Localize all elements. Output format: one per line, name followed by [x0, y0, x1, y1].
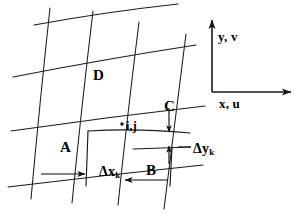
x-axis-label: x, u [219, 97, 240, 110]
grid-diagram-figure: D C A B i,j Δxk Δyk y, v x, u [0, 0, 307, 215]
delta-y-label: Δyk [193, 142, 214, 157]
delta-x-label: Δxk [99, 165, 120, 180]
gridline-h-1 [34, 4, 178, 25]
gridline-v-4 [164, 34, 186, 209]
cell-label-b: B [146, 163, 156, 178]
delta-y-subscript: k [209, 147, 214, 157]
mesh-lines-horizontal-family [8, 4, 205, 187]
delta-y-dimension [169, 108, 191, 164]
y-axis-label: y, v [218, 30, 238, 43]
cell-label-a: A [60, 140, 71, 155]
cell-label-d: D [93, 68, 104, 83]
cell-label-c: C [164, 99, 175, 114]
node-marker-ij [120, 122, 123, 125]
gridline-v-3 [118, 22, 139, 205]
cell-top-edge [88, 130, 190, 133]
node-label-ij: i,j [126, 120, 137, 132]
gridline-v-1 [31, 8, 50, 199]
delta-y-symbol: Δy [193, 141, 209, 156]
delta-x-subscript: k [115, 170, 120, 180]
gridline-h-2 [13, 45, 196, 77]
diagram-canvas [0, 0, 307, 215]
delta-x-symbol: Δx [99, 164, 115, 179]
